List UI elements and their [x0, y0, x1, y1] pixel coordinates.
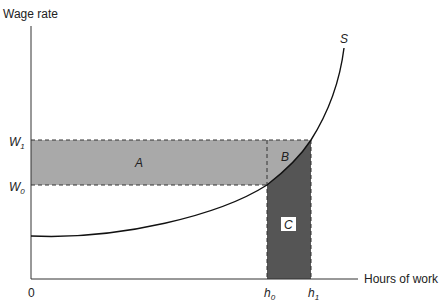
- region-c-label: C: [284, 218, 293, 232]
- y-axis-label: Wage rate: [3, 7, 58, 21]
- curve-s-label: S: [340, 32, 348, 46]
- x-axis-label: Hours of work: [364, 272, 439, 286]
- labour-supply-diagram: Wage rate Hours of work 0 W1 W0 h0 h1 S …: [0, 0, 441, 308]
- region-a-fill: [31, 140, 311, 185]
- w0-label: W0: [9, 180, 25, 196]
- w1-label: W1: [9, 135, 25, 151]
- h1-label: h1: [308, 286, 319, 302]
- region-a-label: A: [134, 156, 143, 170]
- region-b-label: B: [281, 150, 289, 164]
- h0-label: h0: [264, 286, 276, 302]
- origin-label: 0: [28, 286, 35, 300]
